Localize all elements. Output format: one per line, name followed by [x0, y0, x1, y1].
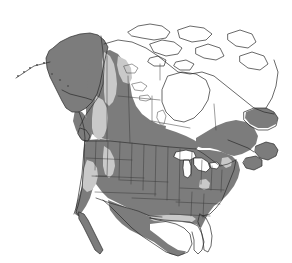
north-america-map: [0, 0, 292, 263]
outline-lake-winnipeg: [157, 110, 166, 124]
aleutian-island-6: [51, 73, 53, 75]
coast-aleutian-chain: [16, 62, 50, 78]
aleutian-island-8: [67, 85, 69, 87]
aleutian-island-4: [23, 71, 25, 73]
aleutian-island-3: [29, 67, 31, 69]
aleutian-island-1: [43, 62, 45, 64]
aleutian-island-5: [17, 75, 19, 77]
aleutian-island-7: [59, 79, 61, 81]
aleutian-island-2: [36, 64, 38, 66]
range-map-figure: [0, 0, 292, 263]
range-baja-california: [79, 212, 103, 254]
